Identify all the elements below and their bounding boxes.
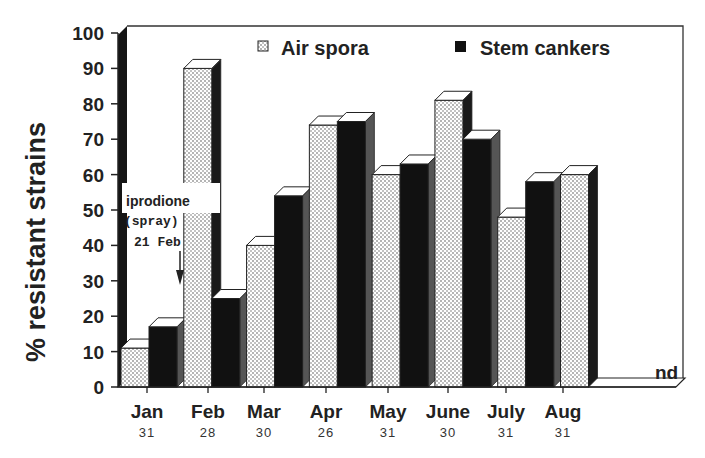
y-tick-label: 100 (72, 23, 104, 44)
x-category-label: May (370, 401, 407, 422)
x-category-label: Feb (191, 401, 225, 422)
y-tick-label: 70 (83, 129, 104, 150)
arrow-head-icon (176, 270, 184, 285)
bar-stem-cankers-jan (149, 318, 186, 387)
sample-count-label: 31 (139, 425, 155, 440)
legend: Air spora Stem cankers (258, 37, 610, 59)
sample-count-label: 30 (256, 425, 272, 440)
bar-chart: 0102030405060708090100 Jan31Feb28Mar30Ap… (0, 0, 705, 458)
y-tick-label: 80 (83, 94, 104, 115)
sample-count-label: 30 (440, 425, 456, 440)
annotation-spray: (spray) (124, 214, 179, 229)
x-category-label: July (487, 401, 525, 422)
y-tick-label: 90 (83, 58, 104, 79)
bar-stem-cankers-feb (212, 290, 249, 388)
y-axis-label: % resistant strains (21, 122, 51, 362)
sample-count-label: 28 (200, 425, 216, 440)
x-category-label: June (426, 401, 470, 422)
x-category-label: Aug (545, 401, 582, 422)
bar-stem-cankers-july (526, 173, 563, 387)
nd-label: nd (655, 362, 678, 383)
y-axis: 0102030405060708090100 (72, 23, 118, 398)
y-tick-label: 20 (83, 306, 104, 327)
sample-count-label: 31 (380, 425, 396, 440)
y-tick-label: 40 (83, 235, 104, 256)
y-tick-label: 30 (83, 271, 104, 292)
bar-stem-cankers-mar (275, 187, 312, 387)
y-tick-label: 10 (83, 342, 104, 363)
x-category-label: Apr (310, 401, 343, 422)
annotation-date: 21 Feb (134, 235, 181, 250)
y-tick-label: 50 (83, 200, 104, 221)
bars (121, 59, 598, 387)
sample-count-label: 31 (555, 425, 571, 440)
legend-swatch-air-spora (258, 41, 268, 51)
legend-label-air-spora: Air spora (281, 37, 370, 59)
y-tick-label: 60 (83, 165, 104, 186)
sample-count-label: 26 (318, 425, 334, 440)
annotation-iprodione: iprodione (126, 193, 190, 209)
legend-label-stem-cankers: Stem cankers (480, 37, 610, 59)
x-category-label: Jan (131, 401, 164, 422)
sample-count-label: 31 (498, 425, 514, 440)
x-axis: Jan31Feb28Mar30Apr26May31June30July31Aug… (118, 387, 676, 440)
x-category-label: Mar (247, 401, 281, 422)
y-tick-label: 0 (93, 377, 104, 398)
bar-stem-cankers-may (400, 155, 437, 387)
legend-swatch-stem-cankers (455, 41, 466, 52)
bar-stem-cankers-apr (337, 113, 374, 388)
bar-stem-cankers-june (463, 130, 500, 387)
bar-air-spora-aug (561, 166, 598, 387)
